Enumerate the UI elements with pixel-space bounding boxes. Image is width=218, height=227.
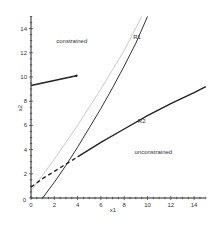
constrained-segment-curve	[31, 76, 76, 86]
x-tick-label: 14	[191, 202, 198, 208]
y-tick-label: 10	[20, 74, 27, 80]
y-tick-label: 14	[20, 26, 27, 32]
x-tick-label: 4	[76, 202, 80, 208]
x-tick-label: 0	[29, 202, 33, 208]
origin-label: 0	[23, 197, 27, 203]
y-tick-label: 8	[24, 98, 28, 104]
x-tick-label: 10	[144, 202, 151, 208]
chart: 0246810121424681012140 constraineduncons…	[0, 0, 218, 227]
annotation-r2: R2	[138, 118, 146, 124]
annotations: constrainedunconstrainedR1R2	[56, 34, 172, 155]
y-tick-label: 6	[24, 122, 28, 128]
x-tick-label: 6	[99, 202, 103, 208]
annotation-constrained: constrained	[56, 38, 87, 44]
axes: 0246810121424681012140	[20, 17, 205, 209]
y-axis-label: x2	[17, 104, 23, 111]
x-tick-label: 12	[167, 202, 174, 208]
x-tick-label: 2	[53, 202, 57, 208]
annotation-unconstrained: unconstrained	[134, 149, 172, 155]
y-tick-label: 12	[20, 50, 27, 56]
x-tick-label: 8	[123, 202, 127, 208]
y-tick-label: 4	[24, 147, 28, 153]
x-axis-label: x1	[110, 207, 117, 213]
y-tick-label: 2	[24, 171, 28, 177]
segment-endpoint-marker	[75, 75, 77, 77]
annotation-r1: R1	[133, 34, 141, 40]
